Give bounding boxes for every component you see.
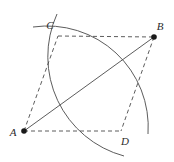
vertex-dot-b [151, 34, 157, 40]
vertex-label-c: C [46, 19, 54, 31]
segment-b-d [121, 37, 154, 131]
segment-a-b-diagonal [24, 37, 154, 131]
vertex-label-a: A [9, 126, 17, 138]
vertex-label-b: B [157, 20, 164, 32]
geometry-canvas: A B C D [0, 0, 174, 162]
geometry-figure: A B C D [0, 0, 174, 162]
vertex-label-d: D [120, 135, 129, 147]
segment-a-c [24, 36, 58, 131]
arc-centered-at-b [48, 14, 124, 156]
vertex-dot-a [21, 128, 27, 134]
segment-c-b [58, 36, 154, 37]
